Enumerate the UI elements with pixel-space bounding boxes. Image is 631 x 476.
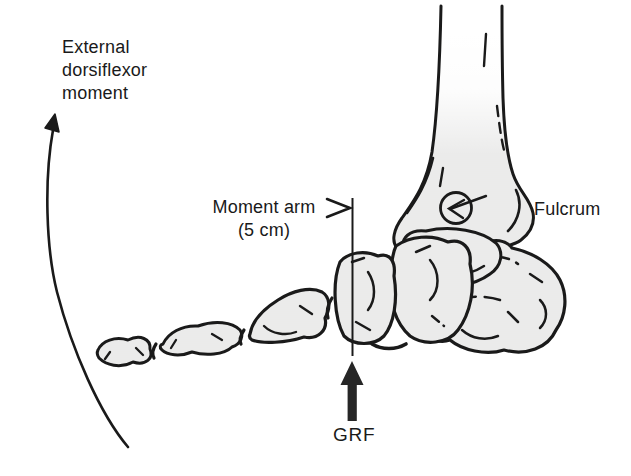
external-moment-line3: moment: [62, 82, 147, 105]
moment-arm-chevron-icon: [327, 199, 350, 217]
external-moment-line2: dorsiflexor: [62, 59, 147, 82]
external-dorsiflexor-moment-label: External dorsiflexor moment: [62, 36, 147, 105]
grf-label: GRF: [333, 423, 376, 446]
fulcrum-label: Fulcrum: [534, 198, 600, 221]
grf-force-arrow-icon: [341, 361, 364, 421]
metatarsal-bone: [249, 289, 328, 342]
dorsiflexor-moment-curved-arrow: [45, 114, 128, 447]
moment-arm-line1: Moment arm: [198, 196, 330, 219]
navicular-bone: [335, 253, 395, 344]
moment-arm-label: Moment arm (5 cm): [198, 196, 330, 242]
external-moment-line1: External: [62, 36, 147, 59]
cuboid-bone: [390, 237, 473, 342]
joint-shadow-mark: [372, 344, 406, 349]
distal-phalanx-bone: [97, 337, 151, 365]
middle-phalanx-bone: [160, 323, 242, 355]
figure-foot-biomechanics: External dorsiflexor moment Moment arm (…: [0, 0, 631, 476]
moment-arm-value: (5 cm): [198, 219, 330, 242]
